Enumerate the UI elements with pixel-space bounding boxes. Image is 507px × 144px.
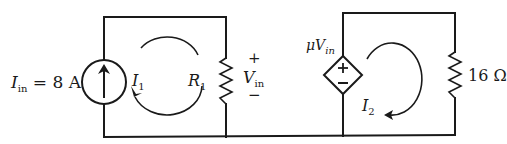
r1-sub: 1 xyxy=(200,81,206,92)
bottom-wire xyxy=(104,135,455,137)
source-label-value: = 8 A xyxy=(27,72,81,92)
diamond-icon xyxy=(324,56,362,94)
r1-var: R xyxy=(188,71,200,90)
i1-sub: 1 xyxy=(138,81,144,92)
r1-label: R1 xyxy=(188,73,206,89)
vin-label: Vin xyxy=(243,70,264,86)
resistor-16ohm-zigzag xyxy=(449,52,461,98)
vin-plus: + xyxy=(248,51,261,66)
r16-label: 16 Ω xyxy=(468,68,507,84)
i2-sub: 2 xyxy=(368,106,374,117)
vin-var: V xyxy=(243,68,255,87)
source-label-sub: in xyxy=(18,83,28,94)
vin-minus: − xyxy=(248,88,261,103)
right-loop-wires xyxy=(343,13,455,136)
dep-v-sub: in xyxy=(325,45,335,56)
left-loop-wires xyxy=(104,17,226,137)
source-label-var: I xyxy=(11,72,18,92)
mesh-current-i2 xyxy=(367,43,422,120)
i2-label: I2 xyxy=(362,98,375,114)
i1-label: I1 xyxy=(132,73,145,89)
dependent-voltage-source xyxy=(324,56,362,94)
dep-source-label: μVin xyxy=(306,38,335,52)
current-source xyxy=(82,60,126,104)
i2-arc xyxy=(367,43,422,115)
source-label: Iin = 8 A xyxy=(11,74,81,91)
mu-symbol: μ xyxy=(306,37,315,53)
resistor-r1-zigzag xyxy=(220,58,232,104)
i1-top-arc xyxy=(141,37,198,55)
i1-bottom-arc xyxy=(135,86,202,115)
dep-v-var: V xyxy=(315,37,325,53)
